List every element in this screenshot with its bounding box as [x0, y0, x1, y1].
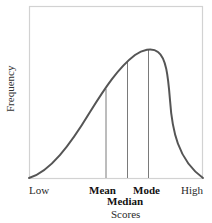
x-tick-high: High — [181, 184, 203, 196]
x-axis-label: Scores — [111, 208, 140, 220]
plot-frame — [30, 7, 203, 179]
distribution-curve — [29, 49, 203, 178]
y-axis-label: Frequency — [4, 66, 16, 112]
x-tick-low: Low — [29, 184, 49, 196]
x-tick-median: Median — [107, 195, 143, 207]
